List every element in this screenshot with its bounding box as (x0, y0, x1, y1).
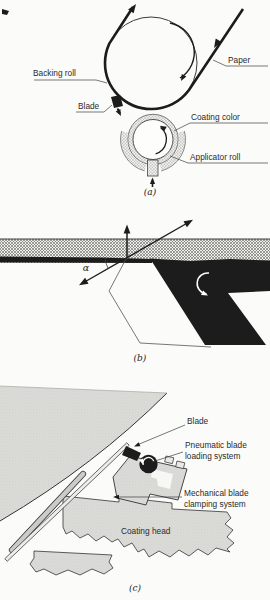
panel-b: α (b) (0, 217, 270, 363)
pneumatic-label-line2: loading system (185, 451, 240, 461)
panel-c: Blade Pneumatic blade loading system Mec… (0, 386, 249, 593)
mechanical-label-line1: Mechanical blade (184, 488, 249, 498)
mechanical-label-line2: clamping system (184, 499, 246, 509)
web-direction-arrowhead-down-icon (77, 278, 88, 288)
blade-label: Blade (78, 101, 100, 111)
web-direction-arrowhead-up-icon (184, 217, 195, 227)
blade-c-leader-line (137, 425, 185, 445)
panel-a: Backing roll Blade Paper Coating color A… (2, 2, 268, 197)
blade-angle-label: α (83, 262, 90, 273)
clamp-bolt-2 (176, 461, 185, 469)
coating-supply-arrowhead-icon (150, 178, 155, 185)
panel-a-caption: (a) (144, 187, 157, 197)
coating-color-label: Coating color (191, 112, 240, 122)
paper-label: Paper (228, 55, 250, 65)
coating-color-leader-line (174, 123, 268, 131)
coating-feed-stem (148, 160, 159, 176)
paper-web-path (105, 7, 243, 109)
scan-artifact-mark (2, 9, 9, 15)
pneumatic-label-line1: Pneumatic blade (185, 440, 247, 450)
backing-roll-rotation-arrow (170, 23, 194, 78)
blade-c-leader-arrowhead-icon (133, 442, 140, 448)
normal-force-arrowhead-icon (124, 225, 131, 234)
blade-c-label: Blade (187, 416, 209, 426)
backing-roll-leader-line (34, 80, 107, 83)
panel-c-caption: (c) (129, 583, 142, 593)
blade-pressure-arrowhead-icon (116, 109, 124, 117)
backing-roll-rotation-arrowhead-icon (179, 74, 187, 82)
backing-roll-label: Backing roll (33, 68, 76, 78)
blade-holder-mass (150, 259, 270, 346)
mechanical-leader-arrowhead-icon (113, 495, 119, 499)
coating-head-label: Coating head (121, 526, 171, 536)
blade-coating-diagram: Backing roll Blade Paper Coating color A… (0, 0, 270, 600)
applicator-roll-label: Applicator roll (190, 152, 240, 162)
panel-b-caption: (b) (134, 353, 147, 363)
coating-head-lower-block (30, 551, 113, 575)
